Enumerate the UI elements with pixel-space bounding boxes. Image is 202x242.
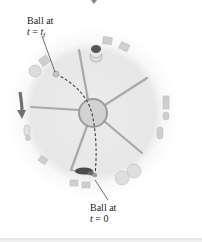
label-line1: Ball at xyxy=(27,15,53,26)
hub xyxy=(79,99,107,127)
label-ball-at-t-zero: Ball at t = 0 xyxy=(90,202,116,224)
ball-at-t-final xyxy=(53,71,59,77)
label-ball-at-t-final: Ball at t = tf xyxy=(27,15,53,41)
top-arrow-icon xyxy=(91,0,97,4)
label-line2: t = 0 xyxy=(90,213,116,224)
bottom-divider xyxy=(0,238,202,242)
label-line1: Ball at xyxy=(90,202,116,213)
label-line2: t = tf xyxy=(27,26,53,41)
ball-at-t-zero xyxy=(93,173,97,177)
